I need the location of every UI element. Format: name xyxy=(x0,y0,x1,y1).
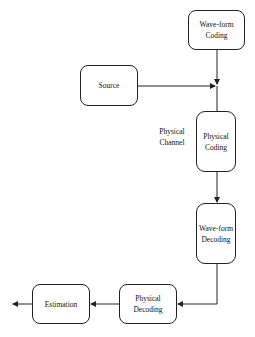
node-estimation-label: Estimation xyxy=(45,299,78,310)
node-physical-decoding: Physical Decoding xyxy=(119,284,177,324)
label-physical-channel: Physical Channel xyxy=(156,126,188,148)
node-waveform-coding-line2: Coding xyxy=(200,30,234,41)
node-physical-coding-line1: Physical xyxy=(203,131,228,142)
node-waveform-decoding-line2: Decoding xyxy=(199,234,233,245)
node-source: Source xyxy=(80,65,138,106)
node-waveform-coding: Wave-form Coding xyxy=(188,10,245,50)
label-physical-channel-line1: Physical xyxy=(156,126,188,137)
node-waveform-coding-line1: Wave-form xyxy=(200,19,234,30)
node-waveform-decoding: Wave-form Decoding xyxy=(196,203,236,264)
label-physical-channel-line2: Channel xyxy=(156,137,188,148)
node-physical-coding: Physical Coding xyxy=(196,111,236,172)
node-waveform-decoding-line1: Wave-form xyxy=(199,223,233,234)
node-estimation: Estimation xyxy=(32,284,90,324)
node-physical-coding-line2: Coding xyxy=(203,142,228,153)
node-physical-decoding-line1: Physical xyxy=(133,293,162,304)
node-physical-decoding-line2: Decoding xyxy=(133,304,162,315)
edge-waveform-decoding-to-physical-decoding xyxy=(178,264,217,304)
node-source-label: Source xyxy=(99,80,120,91)
